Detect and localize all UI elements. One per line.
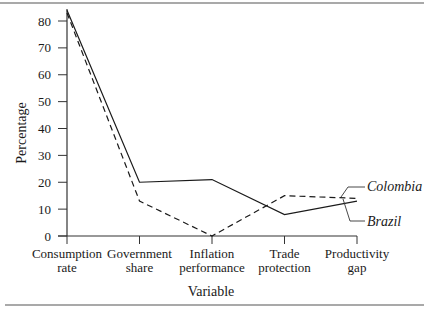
x-axis-title: Variable [188,284,235,299]
y-tick-label: 70 [38,40,51,55]
y-tick-label: 20 [38,175,51,190]
y-axis: 01020304050607080 [38,9,67,244]
series-line-colombia [67,13,357,236]
y-tick-label: 60 [38,67,51,82]
x-tick-label: Tradeprotection [258,246,311,275]
x-tick-label: Governmentshare [107,246,172,275]
brazil-leader-line [343,199,365,221]
legend-label-brazil: Brazil [367,214,401,229]
series-lines [67,10,357,236]
legend: ColombiaBrazil [341,179,422,229]
series-line-brazil [67,10,357,214]
legend-label-colombia: Colombia [367,179,422,194]
colombia-leader-line [341,187,365,197]
y-tick-label: 50 [38,94,51,109]
y-tick-label: 10 [38,202,51,217]
x-tick-label: Inflationperformance [179,246,245,275]
y-tick-label: 40 [38,121,51,136]
line-chart: 01020304050607080 ConsumptionrateGovernm… [0,0,431,310]
y-tick-label: 0 [45,229,52,244]
y-tick-label: 80 [38,14,51,29]
y-axis-title: Percentage [14,102,29,163]
y-tick-label: 30 [38,148,51,163]
x-tick-label: Productivitygap [325,246,390,275]
x-tick-label: Consumptionrate [32,246,103,275]
x-axis: ConsumptionrateGovernmentshareInflationp… [32,236,390,275]
